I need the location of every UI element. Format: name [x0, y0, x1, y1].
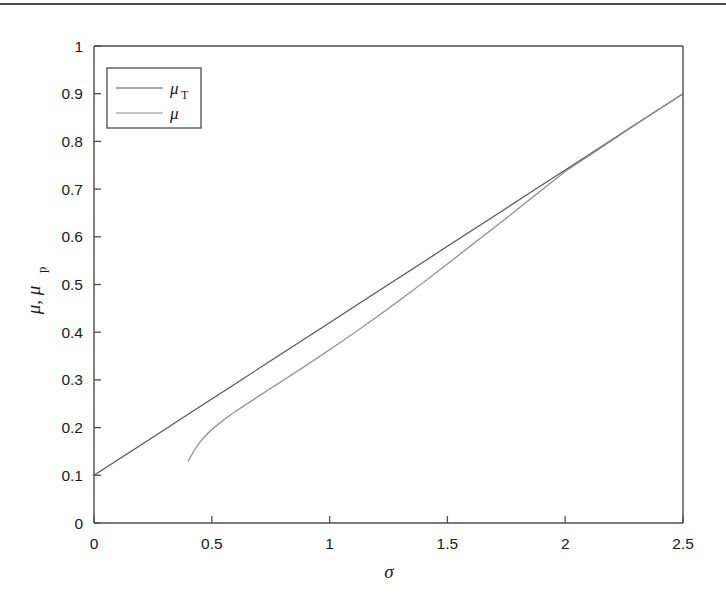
x-tick-label: 0.5 [201, 535, 223, 552]
y-tick-label: 0.5 [61, 276, 83, 293]
x-tick-label: 0 [90, 535, 99, 552]
y-tick-label: 1 [74, 38, 83, 55]
y-tick-label: 0.9 [61, 85, 83, 102]
y-axis-tick-labels: 00.10.20.30.40.50.60.70.80.91 [61, 38, 83, 532]
line-chart: 00.511.522.5 00.10.20.30.40.50.60.70.80.… [0, 0, 726, 607]
y-tick-label: 0.1 [61, 467, 83, 484]
y-axis-title-subscript: p [34, 267, 49, 274]
y-axis-title-main: μ, μ [23, 286, 44, 316]
y-tick-label: 0.7 [61, 181, 83, 198]
legend-label-mu: μ [169, 104, 179, 123]
y-tick-label: 0.3 [61, 371, 83, 388]
legend-label-mu-t: μ [169, 79, 179, 98]
y-tick-label: 0 [74, 515, 83, 532]
x-tick-label: 1 [325, 535, 334, 552]
y-tick-label: 0.8 [61, 133, 83, 150]
legend-label-mu-t-subscript: T [181, 88, 189, 102]
y-axis-title: μ, μ p [23, 267, 49, 316]
x-axis-tick-labels: 00.511.522.5 [90, 535, 694, 552]
x-tick-label: 1.5 [437, 535, 459, 552]
y-tick-label: 0.4 [61, 324, 83, 341]
figure-canvas: 00.511.522.5 00.10.20.30.40.50.60.70.80.… [0, 0, 726, 607]
x-tick-label: 2 [561, 535, 570, 552]
y-tick-label: 0.2 [61, 419, 83, 436]
y-tick-label: 0.6 [61, 228, 83, 245]
x-tick-label: 2.5 [672, 535, 694, 552]
x-axis-title: σ [384, 561, 394, 582]
legend[interactable]: μ T μ [107, 68, 201, 128]
